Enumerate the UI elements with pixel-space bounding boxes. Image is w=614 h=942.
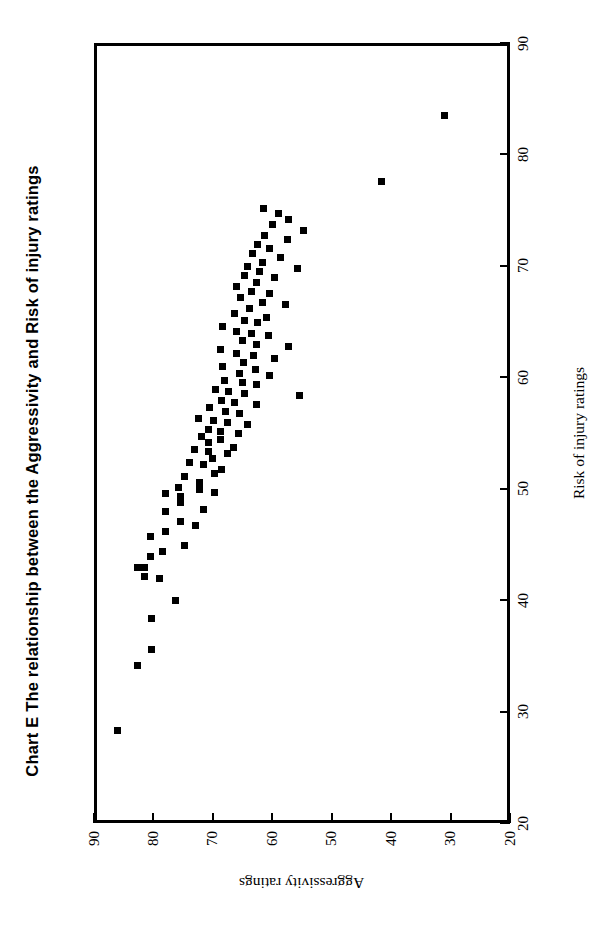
data-point: [209, 455, 216, 462]
tick-value: 60: [515, 370, 532, 385]
data-point: [233, 283, 240, 290]
tick-value: 80: [515, 147, 532, 162]
data-point: [240, 359, 247, 366]
data-point: [217, 346, 224, 353]
data-point: [296, 392, 303, 399]
aggressivity-tick: [390, 813, 392, 823]
data-point: [285, 216, 292, 223]
aggressivity-tick: [152, 813, 154, 823]
data-point: [271, 274, 278, 281]
data-point: [186, 459, 193, 466]
tick-value: 80: [145, 831, 162, 846]
data-point: [277, 254, 284, 261]
data-point: [212, 386, 219, 393]
risk-of-injury-tick-label: 80: [516, 139, 550, 169]
tick-value: 20: [515, 816, 532, 831]
tick-value: 90: [515, 36, 532, 51]
risk-of-injury-tick-label: 30: [516, 697, 550, 727]
data-point: [269, 221, 276, 228]
risk-of-injury-tick: [500, 376, 510, 378]
risk-of-injury-tick: [500, 599, 510, 601]
data-point: [239, 337, 246, 344]
aggressivity-tick-label: 60: [252, 829, 292, 847]
data-point: [217, 436, 224, 443]
data-point: [205, 439, 212, 446]
data-point: [241, 390, 248, 397]
data-point: [177, 493, 184, 500]
data-point: [266, 245, 273, 252]
data-point: [177, 499, 184, 506]
data-point: [233, 350, 240, 357]
data-point: [248, 330, 255, 337]
data-point: [206, 404, 213, 411]
data-point: [192, 522, 199, 529]
data-point: [219, 323, 226, 330]
aggressivity-tick-label: 50: [312, 829, 352, 847]
data-point: [282, 301, 289, 308]
page-title: Chart E The relationship between the Agg…: [23, 165, 42, 776]
aggressivity-tick: [450, 813, 452, 823]
aggressivity-tick-label: 70: [193, 829, 233, 847]
data-point: [200, 506, 207, 513]
aggressivity-tick: [93, 813, 95, 823]
tick-value: 60: [264, 831, 281, 846]
data-point: [156, 575, 163, 582]
data-point: [252, 366, 259, 373]
tick-value: 70: [515, 258, 532, 273]
data-point: [225, 388, 232, 395]
data-point: [162, 528, 169, 535]
data-point: [195, 415, 202, 422]
data-point: [148, 615, 155, 622]
risk-of-injury-tick: [500, 265, 510, 267]
data-point: [237, 294, 244, 301]
data-point: [265, 332, 272, 339]
risk-of-injury-tick-label: 50: [516, 474, 550, 504]
data-point: [241, 317, 248, 324]
data-point: [218, 466, 225, 473]
data-point: [239, 379, 246, 386]
data-point: [253, 279, 260, 286]
data-point: [246, 305, 253, 312]
tick-value: 90: [86, 831, 103, 846]
aggressivity-tick: [212, 813, 214, 823]
data-point: [260, 205, 267, 212]
data-point: [181, 473, 188, 480]
scatter-series: [97, 46, 507, 820]
data-point: [256, 268, 263, 275]
data-point: [147, 533, 154, 540]
data-point: [218, 397, 225, 404]
aggressivity-tick-label: 80: [133, 829, 173, 847]
tick-value: 50: [323, 831, 340, 846]
risk-of-injury-tick-label: 90: [516, 28, 550, 58]
data-point: [211, 489, 218, 496]
risk-of-injury-axis-label: Risk of injury ratings: [570, 367, 588, 499]
data-point: [300, 227, 307, 234]
data-point: [198, 433, 205, 440]
data-point: [219, 363, 226, 370]
data-point: [294, 265, 301, 272]
data-point: [172, 597, 179, 604]
chart-title-container: Chart E The relationship between the Agg…: [0, 0, 64, 942]
data-point: [200, 461, 207, 468]
data-point: [250, 352, 257, 359]
data-point: [205, 426, 212, 433]
risk-of-injury-tick-label: 60: [516, 362, 550, 392]
data-point: [159, 548, 166, 555]
plot-area: [94, 43, 510, 823]
data-point: [261, 232, 268, 239]
tick-value: 40: [383, 831, 400, 846]
data-point: [177, 518, 184, 525]
tick-value: 30: [442, 831, 459, 846]
data-point: [196, 486, 203, 493]
tick-value: 30: [515, 704, 532, 719]
data-point: [222, 408, 229, 415]
risk-of-injury-tick-label: 40: [516, 585, 550, 615]
data-point: [217, 428, 224, 435]
tick-value: 50: [515, 481, 532, 496]
data-point: [266, 290, 273, 297]
data-point: [266, 372, 273, 379]
risk-of-injury-tick: [500, 711, 510, 713]
data-point: [253, 341, 260, 348]
aggressivity-tick: [331, 813, 333, 823]
data-point: [205, 448, 212, 455]
